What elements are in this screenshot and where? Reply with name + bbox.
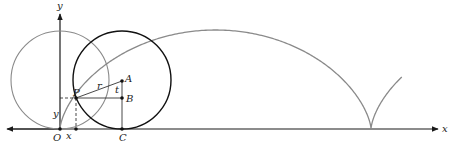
radius-label: r xyxy=(97,80,103,91)
point-p-label: P xyxy=(72,87,80,98)
point-b-label: B xyxy=(125,93,133,104)
point-o xyxy=(58,127,62,131)
y-axis-label: y xyxy=(56,0,63,11)
point-c-label: C xyxy=(119,132,127,143)
cycloid-diagram: y x O x y P r t A B C xyxy=(0,0,454,144)
y-coord-label: y xyxy=(52,108,59,119)
x-axis-label: x xyxy=(442,123,448,134)
cycloid-curve xyxy=(60,30,402,129)
x-coord-label: x xyxy=(66,130,72,141)
point-c xyxy=(120,127,124,131)
point-x xyxy=(74,127,78,131)
origin-label: O xyxy=(53,132,61,143)
center-a-label: A xyxy=(124,73,132,84)
point-b xyxy=(120,96,124,100)
point-a xyxy=(120,79,124,83)
angle-label: t xyxy=(115,84,120,95)
